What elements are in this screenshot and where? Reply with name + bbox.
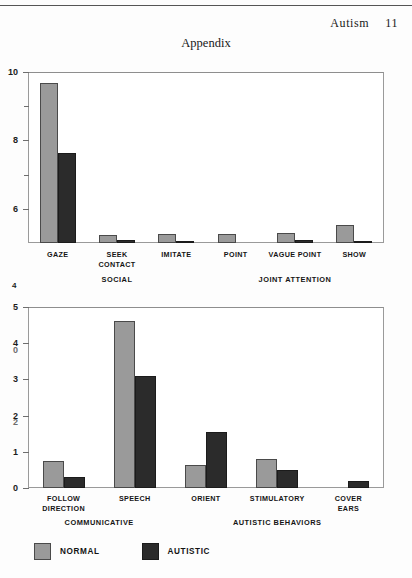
legend-label-normal: NORMAL: [60, 547, 100, 556]
appendix-page: Autism11 Appendix 6810GAZESEEKCONTACTIMI…: [0, 0, 412, 578]
x-axis-group-label: AUTISTIC BEHAVIORS: [197, 518, 357, 527]
bar: [256, 459, 277, 488]
y-axis-tick: [23, 209, 29, 210]
y-axis-minor-tick: [24, 175, 29, 176]
page-title: Appendix: [0, 36, 412, 51]
y-axis-label: 1: [2, 447, 18, 457]
bar: [114, 321, 135, 488]
y-axis-label: 6: [2, 204, 18, 214]
bar: [277, 233, 295, 243]
bar: [135, 376, 156, 488]
chart-legend: NORMAL AUTISTIC: [34, 543, 252, 560]
y-axis-label: 8: [2, 135, 18, 145]
bar: [277, 470, 298, 488]
x-axis-group-label: COMMUNICATIVE: [19, 518, 179, 527]
legend-swatch-autistic-icon: [142, 543, 159, 560]
x-axis-category-label: FOLLOWDIRECTION: [28, 494, 99, 513]
x-axis-category-label: ORIENT: [170, 494, 241, 504]
bar: [295, 240, 313, 243]
bar: [354, 241, 372, 243]
bar: [218, 234, 236, 243]
y-axis-tick: [23, 488, 29, 489]
x-axis-group-label: JOINT ATTENTION: [215, 275, 375, 284]
page-top-rule: [0, 5, 412, 6]
x-axis-category-label: IMITATE: [147, 250, 206, 260]
running-head-title: Autism: [330, 16, 369, 30]
chart-communicative-autistic-behaviors: 01234502FOLLOWDIRECTIONSPEECHORIENTSTIMU…: [0, 300, 412, 532]
y-axis-tick: [23, 343, 29, 344]
stray-marginal-number: 4: [12, 281, 16, 290]
y-axis-label-artifact: 2: [2, 417, 18, 427]
x-axis-category-label: COVEREARS: [313, 494, 384, 513]
legend-label-autistic: AUTISTIC: [168, 547, 211, 556]
x-axis-group-label: SOCIAL: [37, 275, 197, 284]
y-axis-tick: [23, 140, 29, 141]
bar: [99, 235, 117, 243]
bar: [40, 83, 58, 243]
legend-swatch-normal-icon: [34, 543, 51, 560]
y-axis-label: 3: [2, 374, 18, 384]
bar: [64, 477, 85, 488]
y-axis-minor-tick: [24, 106, 29, 107]
y-axis-label: 0: [2, 483, 18, 493]
y-axis-label-artifact: 0: [2, 345, 18, 355]
bar: [336, 225, 354, 243]
y-axis-label: 10: [2, 67, 18, 77]
plot-area: [28, 72, 384, 243]
x-axis-category-label: GAZE: [28, 250, 87, 260]
page-number: 11: [385, 16, 398, 31]
x-axis-category-label: VAGUE POINT: [265, 250, 324, 260]
legend-item-autistic: AUTISTIC: [142, 543, 211, 560]
bar: [348, 481, 369, 488]
bar: [206, 432, 227, 488]
x-axis-category-label: SHOW: [325, 250, 384, 260]
bar: [185, 465, 206, 488]
y-axis-tick: [23, 72, 29, 73]
y-axis-tick: [23, 452, 29, 453]
legend-item-normal: NORMAL: [34, 543, 100, 560]
running-head: Autism11: [330, 16, 398, 31]
bar: [43, 461, 64, 488]
y-axis-tick: [23, 379, 29, 380]
bar: [58, 153, 76, 243]
x-axis-category-label: STIMULATORY: [242, 494, 313, 504]
x-axis-category-label: POINT: [206, 250, 265, 260]
chart-social-joint-attention: 6810GAZESEEKCONTACTIMITATEPOINTVAGUE POI…: [0, 60, 412, 290]
x-axis-category-label: SEEKCONTACT: [87, 250, 146, 269]
bar: [117, 240, 135, 243]
y-axis-tick: [23, 416, 29, 417]
bar: [158, 234, 176, 243]
x-axis-category-label: SPEECH: [99, 494, 170, 504]
y-axis-label: 5: [2, 302, 18, 312]
bar: [176, 241, 194, 243]
y-axis-tick: [23, 307, 29, 308]
